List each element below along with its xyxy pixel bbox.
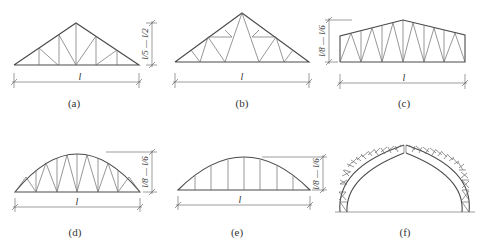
truss-b: l (b)	[172, 13, 312, 110]
truss-a: l l/5 — l/2 (a)	[11, 20, 157, 110]
truss-d-chords	[15, 154, 140, 192]
arch-f-left-outer	[340, 145, 404, 212]
truss-e-webs	[195, 157, 293, 190]
caption-a: (a)	[68, 97, 81, 110]
truss-e-height-label: l/8 — l/6	[311, 158, 321, 190]
truss-b-span-label: l	[241, 71, 244, 82]
truss-c: l l/8 — l/6 (c)	[317, 17, 468, 110]
truss-a-chords	[14, 23, 139, 65]
arch-f-left-inner	[347, 153, 404, 212]
truss-d: l l/8 — l/6 (d)	[12, 149, 157, 239]
caption-e: (e)	[231, 226, 244, 239]
truss-a-webs	[39, 23, 117, 65]
caption-c: (c)	[398, 97, 411, 110]
caption-f: (f)	[400, 226, 411, 239]
truss-d-height-label: l/8 — l/6	[140, 156, 150, 188]
truss-c-webs	[340, 20, 465, 62]
truss-f: (f)	[335, 145, 475, 239]
truss-e: l l/8 — l/6 (e)	[175, 154, 327, 239]
arch-f-right-outer	[406, 145, 469, 212]
caption-d: (d)	[69, 226, 82, 239]
truss-e-span-label: l	[239, 194, 242, 205]
truss-a-span-label: l	[79, 71, 82, 82]
truss-e-span-dimension	[175, 196, 313, 210]
truss-a-height-label: l/5 — l/2	[140, 28, 150, 60]
truss-a-span-dimension	[11, 73, 142, 88]
arch-f-right-inner	[406, 153, 462, 212]
truss-c-height-label: l/8 — l/6	[317, 25, 327, 57]
truss-diagram: l l/5 — l/2 (a)	[0, 0, 489, 245]
truss-c-span-label: l	[403, 72, 406, 83]
truss-b-chords	[175, 13, 309, 62]
truss-d-span-label: l	[76, 196, 79, 207]
caption-b: (b)	[236, 97, 249, 110]
truss-b-webs	[191, 13, 293, 62]
